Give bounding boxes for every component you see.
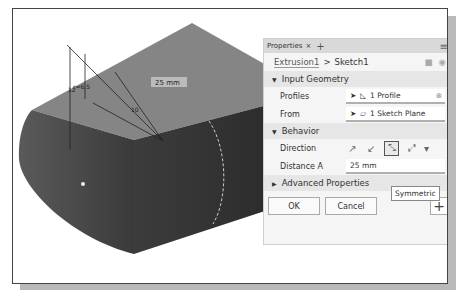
tab-properties[interactable]: Properties× bbox=[267, 42, 311, 50]
from-row: From ➤▱1 Sketch Plane bbox=[264, 105, 448, 123]
section-input-geometry[interactable]: ▼Input Geometry bbox=[264, 71, 448, 87]
breadcrumb-sketch1[interactable]: Sketch1 bbox=[335, 57, 369, 67]
profiles-selector[interactable]: ➤◺1 Profile⊗ bbox=[346, 89, 445, 104]
close-icon[interactable]: × bbox=[305, 42, 311, 50]
symmetric-tooltip: Symmetric bbox=[391, 186, 440, 201]
cursor-icon: ➤ bbox=[350, 109, 356, 118]
direction-default-button[interactable]: ↗ bbox=[346, 142, 359, 155]
plane-icon: ▱ bbox=[360, 109, 366, 118]
breadcrumb-extrusion1[interactable]: Extrusion1 bbox=[274, 57, 319, 68]
expand-triangle-icon: ▶ bbox=[272, 180, 277, 187]
direction-row: Direction ↗ ↙ ⤡ ⤢ ▾ bbox=[264, 139, 448, 157]
clear-icon[interactable]: ⊗ bbox=[436, 91, 442, 100]
distance-row: Distance A 25 mm bbox=[264, 157, 448, 175]
direction-symmetric-button[interactable]: ⤡ bbox=[384, 141, 399, 156]
direction-asymmetric-button[interactable]: ⤢ bbox=[405, 142, 418, 155]
properties-panel: Properties× + ≡ Extrusion1 > Sketch1 ■◉ … bbox=[263, 38, 448, 245]
svg-text:10: 10 bbox=[131, 106, 139, 113]
section-behavior[interactable]: ▼Behavior bbox=[264, 123, 448, 139]
from-selector[interactable]: ➤▱1 Sketch Plane bbox=[346, 107, 445, 122]
cube-icon[interactable]: ■ bbox=[425, 57, 433, 67]
profiles-row: Profiles ➤◺1 Profile⊗ bbox=[264, 87, 448, 105]
menu-icon[interactable]: ≡ bbox=[440, 41, 448, 52]
ok-button[interactable]: OK bbox=[268, 197, 320, 215]
add-tab-icon[interactable]: + bbox=[316, 41, 324, 52]
direction-flipped-button[interactable]: ↙ bbox=[365, 142, 378, 155]
screenshot-frame: 25 mm 10 r=6.5 12 Properties× + ≡ Extrus… bbox=[12, 8, 448, 284]
chevron-right-icon: > bbox=[323, 57, 330, 67]
dimension-25mm[interactable]: 25 mm bbox=[155, 79, 180, 87]
collapse-triangle-icon: ▼ bbox=[272, 128, 277, 135]
collapse-triangle-icon: ▼ bbox=[272, 76, 277, 83]
breadcrumb: Extrusion1 > Sketch1 ■◉ bbox=[264, 53, 448, 71]
cancel-button[interactable]: Cancel bbox=[325, 197, 377, 215]
distance-a-input[interactable]: 25 mm bbox=[346, 159, 445, 174]
cursor-icon: ➤ bbox=[350, 91, 356, 100]
svg-text:12: 12 bbox=[68, 86, 76, 93]
eye-icon[interactable]: ◉ bbox=[439, 57, 446, 67]
profile-icon: ◺ bbox=[360, 91, 366, 100]
panel-tab-bar: Properties× + ≡ bbox=[264, 39, 448, 53]
dropdown-icon[interactable]: ▾ bbox=[424, 143, 429, 154]
